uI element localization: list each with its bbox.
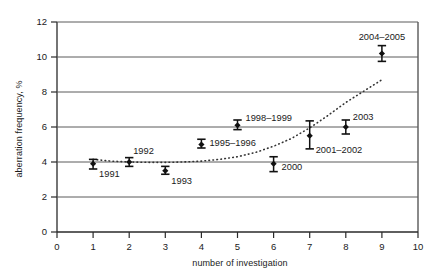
y-tick-label: 4	[42, 156, 47, 167]
x-tick-label: 8	[343, 241, 348, 252]
point-label: 1992	[133, 146, 154, 156]
scatter-plot-svg: 0 2 4 6 8 10 12 0 1 2 3 4	[0, 0, 441, 277]
y-tick-label: 8	[42, 86, 47, 97]
x-tick-label: 10	[413, 241, 424, 252]
point-label: 2000	[282, 162, 303, 172]
point-label: 1998–1999	[246, 113, 293, 123]
x-tick-label: 0	[54, 241, 59, 252]
point-label: 2003	[353, 112, 374, 122]
x-tick-label: 4	[199, 241, 204, 252]
point-label: 1991	[99, 169, 120, 179]
point-label: 2001–2002	[316, 145, 363, 155]
x-tick-label: 6	[271, 241, 276, 252]
x-tick-label: 3	[163, 241, 168, 252]
point-label: 2004–2005	[359, 32, 406, 42]
y-tick-label: 12	[36, 16, 47, 27]
x-axis-ticks	[57, 232, 418, 238]
x-axis-title: number of investigation	[150, 258, 330, 268]
x-axis-tick-labels: 0 1 2 3 4 5 6 7 8 9 10	[54, 241, 423, 252]
y-tick-label: 2	[42, 191, 47, 202]
y-axis-ticks	[51, 22, 57, 232]
y-tick-label: 6	[42, 121, 47, 132]
x-tick-label: 7	[307, 241, 312, 252]
x-tick-label: 9	[379, 241, 384, 252]
chart-figure: 0 2 4 6 8 10 12 0 1 2 3 4	[0, 0, 441, 277]
y-tick-label: 0	[42, 226, 47, 237]
y-tick-label: 10	[36, 51, 47, 62]
y-axis-tick-labels: 0 2 4 6 8 10 12	[36, 16, 47, 237]
point-label: 1995–1996	[209, 138, 256, 148]
x-tick-label: 1	[90, 241, 95, 252]
point-label: 1993	[171, 176, 192, 186]
y-axis-title: aberration frequency, %	[14, 54, 24, 204]
x-tick-label: 2	[127, 241, 132, 252]
x-tick-label: 5	[235, 241, 240, 252]
